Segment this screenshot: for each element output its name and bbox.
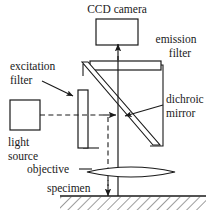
emission-filter-label-line1: emission — [156, 33, 197, 45]
dichroic-mirror-label-line1: dichroic — [166, 93, 204, 105]
specimen — [60, 196, 206, 210]
objective-label: objective — [27, 163, 69, 176]
dichroic-mirror-label-line2: mirror — [166, 107, 196, 119]
objective-lens — [87, 167, 175, 177]
excitation-filter-label-line2: filter — [10, 74, 33, 86]
light-source — [10, 100, 40, 130]
figure-canvas: CCD camera emission filter excitation fi… — [0, 0, 214, 220]
light-source-label-line1: light — [8, 136, 30, 149]
specimen-label: specimen — [47, 182, 91, 195]
excitation-filter — [78, 90, 88, 148]
ccd-camera — [96, 19, 138, 45]
dichroic-mirror — [82, 62, 160, 145]
excitation-filter-label-line1: excitation — [10, 60, 56, 72]
light-source-label-line2: source — [8, 150, 38, 162]
emission-filter — [90, 61, 161, 70]
leader-lines — [42, 81, 163, 169]
microscope-schematic: CCD camera emission filter excitation fi… — [0, 0, 214, 220]
ccd-camera-label: CCD camera — [87, 3, 147, 15]
emission-filter-label-line2: filter — [169, 47, 192, 59]
